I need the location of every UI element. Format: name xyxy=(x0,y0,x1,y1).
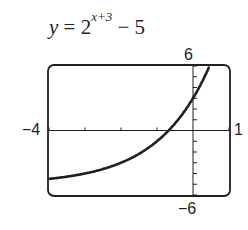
function-curve xyxy=(50,68,209,179)
graph-window xyxy=(0,0,248,230)
